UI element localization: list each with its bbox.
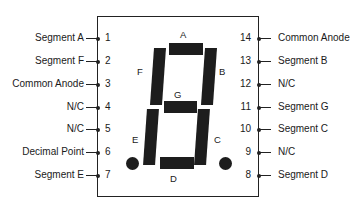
pin-lead	[259, 107, 271, 108]
pin-lead	[259, 61, 271, 62]
pin-number: 1	[105, 32, 111, 44]
pin-label: Segment C	[278, 123, 328, 135]
pin-label: Decimal Point	[22, 146, 84, 158]
pin-dot	[96, 128, 100, 132]
segment-label-a: A	[180, 29, 186, 40]
pin-dot	[96, 60, 100, 64]
pin-number: 11	[241, 101, 251, 113]
segment-label-c: C	[214, 134, 221, 145]
segment-g	[164, 101, 197, 113]
decimal-point-right	[219, 157, 232, 170]
pin-lead	[259, 38, 271, 39]
pin-label: Segment G	[278, 101, 329, 113]
pin-label: Common Anode	[278, 32, 350, 44]
segment-a	[169, 43, 203, 55]
pin-lead	[259, 175, 271, 176]
pin-number: 3	[105, 78, 111, 90]
pin-number: 7	[105, 169, 111, 181]
segment-label-d: D	[170, 173, 177, 184]
pin-label: Segment F	[35, 55, 84, 67]
pin-label: Segment D	[278, 169, 328, 181]
pin-lead	[259, 129, 271, 130]
pin-lead	[259, 84, 271, 85]
pin-label: Segment A	[35, 32, 84, 44]
pin-number: 13	[240, 55, 251, 67]
pin-label: N/C	[278, 78, 295, 90]
pin-label: N/C	[67, 101, 84, 113]
decimal-point-left	[126, 157, 139, 170]
pin-label: Segment B	[278, 55, 327, 67]
pin-number: 8	[245, 169, 251, 181]
pin-label: Segment E	[35, 169, 84, 181]
pin-dot	[96, 83, 100, 87]
pin-lead	[259, 152, 271, 153]
pin-dot	[96, 37, 100, 41]
pin-number: 9	[245, 146, 251, 158]
pin-dot	[96, 106, 100, 110]
pin-label: Common Anode	[12, 78, 84, 90]
pin-number: 6	[105, 146, 111, 158]
pin-number: 10	[240, 123, 251, 135]
pin-number: 4	[105, 101, 111, 113]
pin-label: N/C	[278, 146, 295, 158]
pin-number: 14	[240, 32, 251, 44]
segment-label-f: F	[137, 66, 143, 77]
segment-label-e: E	[132, 134, 138, 145]
pin-number: 5	[105, 123, 111, 135]
pin-number: 2	[105, 55, 111, 67]
pin-dot	[96, 174, 100, 178]
segment-label-g: G	[174, 89, 181, 100]
pin-label: N/C	[67, 123, 84, 135]
segment-label-b: B	[219, 66, 225, 77]
pin-number: 12	[240, 78, 251, 90]
pin-dot	[96, 151, 100, 155]
segment-d	[160, 157, 194, 169]
